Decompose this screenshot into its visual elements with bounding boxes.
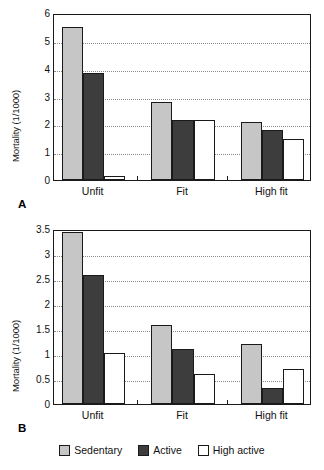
bar-unfit-high-active — [104, 176, 125, 180]
panel-b: Mortality (1/1000) 00.511.522.533.5 Unfi… — [0, 222, 324, 432]
legend-swatch-active — [138, 445, 149, 456]
bar-high-fit-high-active — [283, 139, 304, 180]
panel-b-letter: B — [18, 422, 26, 434]
panel-a-letter: A — [18, 198, 26, 210]
y-tick-label: 2.5 — [36, 275, 50, 285]
x-axis-tick — [137, 176, 138, 181]
x-axis-tick — [137, 400, 138, 405]
x-tick-label: Fit — [176, 185, 188, 197]
panel-b-x-tick-labels: UnfitFitHigh fit — [0, 409, 324, 423]
bar-unfit-sedentary — [62, 232, 83, 405]
legend-label: High active — [213, 445, 265, 456]
panel-a-bars — [54, 15, 310, 180]
y-tick-label: 1 — [44, 350, 50, 360]
bar-fit-sedentary — [151, 325, 172, 404]
y-tick-label: 4 — [44, 65, 50, 75]
y-tick-label: 1 — [44, 148, 50, 158]
panel-b-y-tick-labels: 00.511.522.533.5 — [22, 222, 50, 432]
bar-high-fit-active — [262, 388, 283, 405]
y-tick-label: 6 — [44, 9, 50, 19]
legend-label: Sedentary — [74, 445, 122, 456]
x-tick-label: Fit — [176, 409, 188, 421]
x-tick-label: High fit — [255, 185, 288, 197]
x-axis-tick — [227, 176, 228, 181]
y-tick-label: 3 — [44, 93, 50, 103]
bar-fit-high-active — [194, 120, 215, 180]
bar-fit-sedentary — [151, 102, 172, 180]
panel-b-y-axis-title: Mortality (1/1000) — [10, 376, 21, 392]
x-tick-label: Unfit — [82, 409, 104, 421]
panel-a-plot-area — [53, 14, 311, 181]
panel-a-y-axis-title: Mortality (1/1000) — [10, 146, 21, 162]
legend-label: Active — [153, 445, 182, 456]
bar-unfit-active — [83, 73, 104, 180]
x-tick-label: Unfit — [82, 185, 104, 197]
panel-b-bars — [54, 231, 310, 404]
legend-item-active: Active — [138, 445, 182, 456]
y-tick-label: 5 — [44, 37, 50, 47]
legend-swatch-highactive — [198, 445, 209, 456]
legend-item-highactive: High active — [198, 445, 265, 456]
legend: SedentaryActiveHigh active — [0, 440, 324, 460]
panel-a-x-tick-labels: UnfitFitHigh fit — [0, 185, 324, 199]
figure-mortality-fitness: Mortality (1/1000) 0123456 UnfitFitHigh … — [0, 0, 324, 470]
bar-unfit-sedentary — [62, 27, 83, 180]
y-tick-label: 2 — [44, 300, 50, 310]
panel-b-plot-area — [53, 230, 311, 405]
bar-fit-high-active — [194, 374, 215, 404]
legend-swatch-sedentary — [59, 445, 70, 456]
panel-a: Mortality (1/1000) 0123456 UnfitFitHigh … — [0, 6, 324, 206]
bar-high-fit-active — [262, 130, 283, 180]
y-tick-label: 3 — [44, 250, 50, 260]
bar-fit-active — [172, 349, 193, 404]
x-tick-label: High fit — [255, 409, 288, 421]
bar-fit-active — [172, 120, 193, 180]
bar-high-fit-sedentary — [241, 344, 262, 404]
y-tick-label: 1.5 — [36, 325, 50, 335]
bar-high-fit-sedentary — [241, 122, 262, 180]
y-tick-label: 0.5 — [36, 375, 50, 385]
bar-unfit-active — [83, 275, 104, 404]
bar-high-fit-high-active — [283, 369, 304, 404]
y-tick-label: 2 — [44, 120, 50, 130]
panel-a-y-tick-labels: 0123456 — [22, 6, 50, 206]
legend-item-sedentary: Sedentary — [59, 445, 122, 456]
bar-unfit-high-active — [104, 353, 125, 404]
y-tick-label: 3.5 — [36, 225, 50, 235]
x-axis-tick — [227, 400, 228, 405]
